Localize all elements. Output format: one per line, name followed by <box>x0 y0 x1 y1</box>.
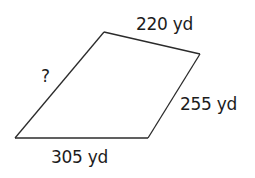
label-side-right: 255 yd <box>180 96 237 113</box>
quadrilateral-diagram <box>0 0 255 178</box>
side-left <box>15 32 104 138</box>
label-side-left-unknown: ? <box>41 68 50 85</box>
label-side-bottom: 305 yd <box>51 149 108 166</box>
side-top <box>104 32 200 54</box>
label-side-top: 220 yd <box>136 16 193 33</box>
